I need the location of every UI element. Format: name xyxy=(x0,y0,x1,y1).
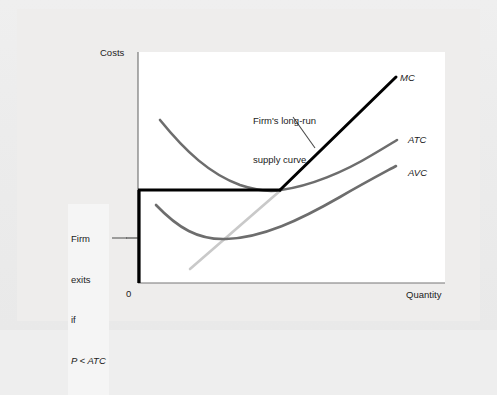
supply-curve-annotation: Firm's long-run supply curve xyxy=(253,88,316,192)
mc-extension-line xyxy=(190,190,281,269)
mc-curve-label: MC xyxy=(400,72,415,85)
exit-condition-note: Firm exits if P < ATC xyxy=(68,204,109,395)
x-axis-label: Quantity xyxy=(406,289,441,302)
annotation-line-2: supply curve xyxy=(253,153,316,166)
exit-note-line-2: exits xyxy=(71,273,106,287)
atc-curve-label: ATC xyxy=(408,134,426,147)
exit-note-line-1: Firm xyxy=(71,232,106,246)
origin-label: 0 xyxy=(126,288,131,301)
annotation-line-1: Firm's long-run xyxy=(253,114,316,127)
avc-curve-label: AVC xyxy=(408,167,427,180)
y-axis-label: Costs xyxy=(100,47,124,60)
exit-note-line-4: P < ATC xyxy=(71,354,106,368)
exit-note-line-3: if xyxy=(71,313,106,327)
